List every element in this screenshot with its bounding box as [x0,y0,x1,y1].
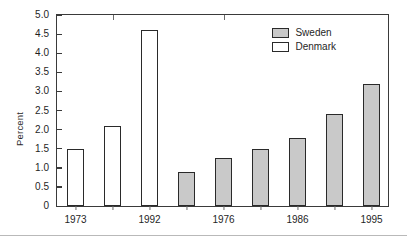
x-axis-tick-mark [371,206,372,210]
y-axis-title-text: Percent [14,112,25,146]
x-axis-tick-mark [149,206,150,210]
x-axis-tick-mark [297,206,298,210]
bar-sweden-4 [215,158,232,207]
y-axis-tick-label: 4.5 [35,27,49,40]
x-axis-tick-label: 1992 [138,213,160,226]
y-axis-tick-label: 5.0 [35,8,49,21]
bar-chart-figure: Percent 00.51.01.52.02.53.03.54.04.55.0 … [0,0,407,250]
x-axis-tick-mark [260,206,261,210]
x-axis-tick-label: 1995 [360,213,382,226]
bar-sweden-7 [326,114,343,206]
y-axis-tick-label: 2.0 [35,123,49,136]
bar-denmark-0 [67,149,84,206]
y-axis-tick-label: 0 [43,199,49,212]
y-axis-tick-label: 2.5 [35,104,49,117]
x-axis-tick-label: 1986 [286,213,308,226]
bar-series-group [57,15,388,206]
bar-sweden-8 [363,84,380,206]
y-axis-title: Percent [2,4,13,84]
chart-legend: SwedenDenmark [272,26,336,54]
y-axis-tick-label: 3.5 [35,65,49,78]
legend-swatch-sweden [272,28,289,38]
legend-item-denmark: Denmark [272,40,336,54]
x-axis-tick-mark [75,206,76,210]
bar-sweden-3 [178,172,195,206]
x-axis-tick-mark [112,206,113,210]
x-axis-tick-mark [223,206,224,210]
legend-label-sweden: Sweden [295,26,331,40]
y-axis-tick-label: 1.0 [35,161,49,174]
plot-area: 00.51.01.52.02.53.03.54.04.55.0 19731992… [56,14,389,207]
legend-item-sweden: Sweden [272,26,336,40]
x-axis-tick-label: 1973 [64,213,86,226]
legend-label-denmark: Denmark [295,40,336,54]
x-axis-tick-mark [186,206,187,210]
y-axis-tick-label: 1.5 [35,142,49,155]
y-axis-tick-label: 0.5 [35,180,49,193]
x-axis-tick-mark [334,206,335,210]
x-axis-tick-label: 1976 [212,213,234,226]
page-divider-rule [0,235,407,236]
bar-sweden-6 [289,138,306,206]
y-axis-tick-label: 3.0 [35,84,49,97]
bar-denmark-2 [141,30,158,206]
bar-sweden-5 [252,149,269,206]
legend-swatch-denmark [272,42,289,52]
bar-denmark-1 [104,126,121,206]
y-axis-tick-label: 4.0 [35,46,49,59]
